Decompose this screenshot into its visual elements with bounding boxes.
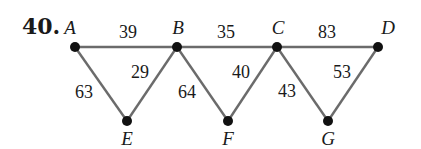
edge-weight-BF: 64 xyxy=(178,82,196,102)
vertices-group xyxy=(70,42,383,126)
weighted-graph-figure: 40. 393583632964404353 ABCDEFG xyxy=(0,0,421,149)
edge-BE xyxy=(127,47,177,121)
vertex-dot-B xyxy=(172,42,182,52)
vertex-label-D: D xyxy=(380,17,395,38)
edge-weight-CF: 40 xyxy=(232,62,250,82)
edge-weight-DG: 53 xyxy=(333,62,351,82)
edge-weight-CD: 83 xyxy=(318,22,336,42)
vertex-dot-C xyxy=(272,42,282,52)
vertex-dot-A xyxy=(70,42,80,52)
edge-weight-BE: 29 xyxy=(131,62,149,82)
vertex-label-G: G xyxy=(321,128,335,149)
vertex-label-B: B xyxy=(172,17,184,38)
vertex-label-F: F xyxy=(221,128,234,149)
edge-weight-AB: 39 xyxy=(119,22,137,42)
vertex-label-C: C xyxy=(272,17,285,38)
edge-CF xyxy=(228,47,277,121)
problem-number: 40. xyxy=(22,13,60,39)
edge-weight-CG: 43 xyxy=(278,81,296,101)
graph-canvas: 40. 393583632964404353 ABCDEFG xyxy=(0,0,421,149)
edge-weight-AE: 63 xyxy=(75,82,93,102)
vertex-dot-D xyxy=(373,42,383,52)
vertex-dot-F xyxy=(223,116,233,126)
edge-weight-BC: 35 xyxy=(217,22,235,42)
vertex-label-A: A xyxy=(62,17,76,38)
edges-group xyxy=(75,47,378,121)
vertex-dot-G xyxy=(323,116,333,126)
vertex-dot-E xyxy=(122,116,132,126)
edge-weights-group: 393583632964404353 xyxy=(75,22,351,102)
vertex-label-E: E xyxy=(120,128,133,149)
edge-DG xyxy=(328,47,378,121)
